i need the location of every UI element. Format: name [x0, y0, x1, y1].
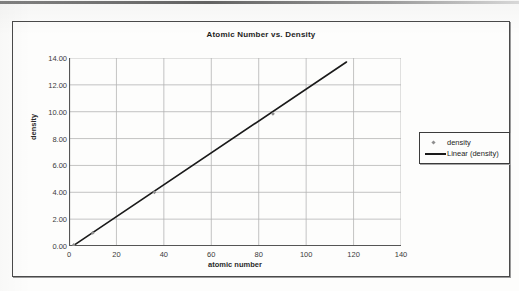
legend-item-density: density: [423, 137, 506, 148]
x-tick-label: 40: [144, 250, 184, 259]
x-tick-label: 140: [381, 250, 421, 259]
legend-line-icon: [423, 148, 447, 159]
y-tick-label: 2.00: [33, 215, 67, 224]
x-tick-label: 80: [239, 250, 279, 259]
y-tick-label: 6.00: [33, 161, 67, 170]
chart-title: Atomic Number vs. Density: [13, 30, 509, 39]
legend-marker-icon: [423, 137, 447, 148]
axis-tick-marks: [69, 58, 401, 246]
y-tick-label: 14.00: [33, 54, 67, 63]
chart-legend: density Linear (density): [419, 132, 510, 164]
x-axis-label: atomic number: [69, 260, 401, 269]
x-tick-label: 120: [334, 250, 374, 259]
x-tick-label: 60: [191, 250, 231, 259]
chart-frame: Atomic Number vs. Density density 0.002.…: [12, 21, 510, 277]
legend-item-linear-density: Linear (density): [423, 148, 506, 159]
legend-label-linear-density: Linear (density): [447, 149, 499, 158]
scan-artifact-band: [0, 1, 519, 4]
y-tick-label: 8.00: [33, 134, 67, 143]
x-tick-label: 20: [96, 250, 136, 259]
y-tick-label: 12.00: [33, 80, 67, 89]
plot-area: [69, 58, 401, 246]
vertical-gridlines: [116, 58, 401, 246]
horizontal-gridlines: [69, 58, 401, 219]
legend-label-density: density: [447, 138, 471, 147]
y-tick-label: 10.00: [33, 107, 67, 116]
chart-canvas: [69, 58, 401, 246]
axis-lines: [69, 58, 401, 246]
plot-wrapper: 0.002.004.006.008.0010.0012.0014.00 0204…: [69, 58, 401, 246]
y-tick-label: 4.00: [33, 188, 67, 197]
scanned-chart-page: Atomic Number vs. Density density 0.002.…: [0, 0, 519, 291]
trendline-series: [74, 62, 347, 245]
x-tick-label: 0: [49, 250, 89, 259]
x-tick-label: 100: [286, 250, 326, 259]
y-axis-tick-labels: 0.002.004.006.008.0010.0012.0014.00: [29, 58, 67, 246]
